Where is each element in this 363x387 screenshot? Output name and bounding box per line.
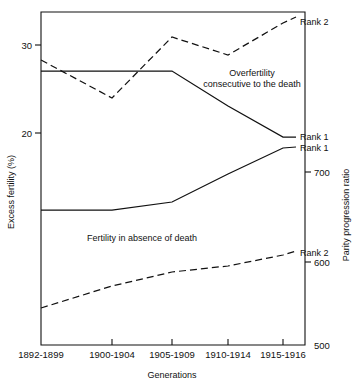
x-axis-title: Generations [147, 370, 197, 380]
left-axis-ticks [35, 45, 41, 133]
left-tick-label-20: 20 [21, 128, 32, 139]
x-tick-label-4: 1915-1916 [260, 349, 305, 360]
x-axis-ticks [112, 339, 283, 345]
series-label-rank2-top: Rank 2 [300, 17, 329, 27]
x-tick-label-2: 1905-1909 [149, 349, 194, 360]
series-label-rank1-upper: Rank 1 [300, 132, 329, 142]
series-rank2-absence [41, 251, 296, 308]
right-tick-label-500: 500 [314, 340, 330, 351]
x-tick-label-1: 1900-1904 [89, 349, 134, 360]
right-tick-label-700: 700 [314, 167, 330, 178]
series-label-rank2-bottom: Rank 2 [300, 248, 329, 258]
left-tick-label-30: 30 [21, 40, 32, 51]
series-rank1-absence [41, 147, 296, 210]
annotation-overfertility-line2: consecutive to the death [203, 79, 301, 89]
y-axis-title-right: Parity progression ratio [341, 169, 351, 262]
annotation-absence-of-death: Fertility in absence of death [87, 233, 197, 243]
x-tick-label-3: 1910-1914 [205, 349, 250, 360]
plot-frame [41, 12, 305, 345]
line-chart: 30 20 700 600 500 1892-1899 1900-1904 19… [0, 0, 363, 387]
annotation-overfertility-line1: Overfertility [229, 68, 275, 78]
x-tick-label-0: 1892-1899 [18, 349, 63, 360]
series-label-rank1-lower: Rank 1 [300, 143, 329, 153]
right-tick-label-600: 600 [314, 257, 330, 268]
chart-figure: 30 20 700 600 500 1892-1899 1900-1904 19… [0, 0, 363, 387]
y-axis-title-left: Excess fertility (%) [6, 155, 16, 229]
